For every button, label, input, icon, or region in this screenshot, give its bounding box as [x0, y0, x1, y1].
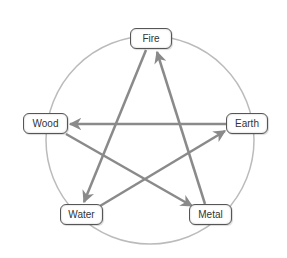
arrow-water-to-earth	[100, 131, 225, 206]
node-metal: Metal	[189, 204, 232, 225]
node-fire-label: Fire	[142, 33, 159, 44]
arrow-metal-to-fire	[157, 52, 205, 204]
node-metal-label: Metal	[198, 209, 222, 220]
arrow-wood-to-metal	[66, 134, 192, 206]
node-wood: Wood	[23, 113, 68, 134]
arrow-fire-to-water	[84, 50, 146, 202]
node-water-label: Water	[68, 209, 94, 220]
node-earth-label: Earth	[235, 118, 259, 129]
node-wood-label: Wood	[33, 118, 59, 129]
node-earth: Earth	[226, 113, 268, 134]
node-fire: Fire	[130, 28, 172, 49]
five-elements-diagram: Fire Wood Earth Water Metal	[0, 0, 287, 258]
node-water: Water	[60, 204, 103, 225]
